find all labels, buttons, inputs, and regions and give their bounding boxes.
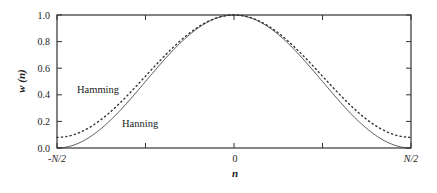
hanning-curve (57, 15, 411, 148)
y-tick-0-4: 0.4 (38, 89, 51, 100)
axes-frame (57, 15, 411, 148)
y-tick-0-8: 0.8 (38, 36, 51, 47)
y-axis-label: w (n) (15, 69, 28, 93)
x-tick-zero: 0 (233, 153, 238, 164)
hamming-label: Hamming (77, 84, 120, 95)
x-tick-neg-n-half: -N/2 (48, 153, 66, 164)
x-axis-label: n (232, 167, 238, 179)
y-tick-0-6: 0.6 (38, 63, 51, 74)
hanning-label: Hanning (122, 118, 159, 129)
axis-ticks (57, 15, 411, 148)
x-tick-n-half: N/2 (403, 153, 418, 164)
y-tick-0-0: 0.0 (38, 143, 51, 154)
plot-area (57, 15, 411, 148)
y-tick-1-0: 1.0 (38, 10, 51, 21)
y-tick-0-2: 0.2 (38, 116, 51, 127)
hamming-curve (57, 15, 411, 137)
window-function-chart: 1.0 0.8 0.6 0.4 0.2 0.0 -N/2 0 N/2 n w (… (0, 0, 437, 193)
